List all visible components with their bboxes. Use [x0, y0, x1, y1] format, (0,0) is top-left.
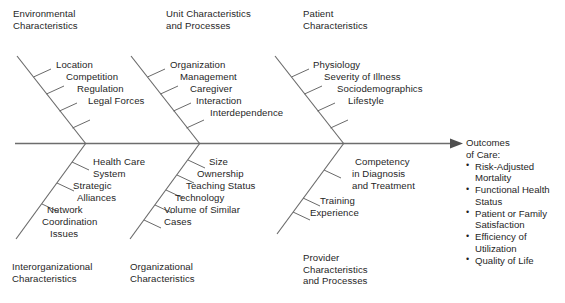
category-label-provider: ProviderCharacteristicsand Processes [303, 252, 368, 287]
twig-interorg-1 [72, 162, 89, 170]
outcome-item-2-label: Functional Health Status [475, 184, 550, 207]
factor-patient-1: Physiology [313, 59, 360, 71]
factor-unit-3: Caregiver [190, 83, 232, 95]
outcome-item-5: •Quality of Life [466, 255, 565, 267]
factor-environmental-2: Competition [66, 71, 118, 83]
twig-environmental-2 [47, 86, 65, 94]
outcomes-block: Outcomes of Care: •Risk-Adjusted Mortali… [466, 137, 565, 266]
twig-provider-2 [303, 198, 320, 206]
category-label-patient-line-2: Characteristics [303, 20, 368, 31]
factor-org-1: Size [209, 156, 228, 168]
factor-patient-3: Sociodemographics [337, 83, 423, 95]
twig-environmental-4 [73, 120, 91, 128]
outcome-item-5-label: Quality of Life [475, 255, 534, 266]
factor-org-2: Ownership [197, 168, 244, 180]
factor-interorg-5: Network [47, 204, 83, 216]
category-label-interorganizational: InterorganizationalCharacteristics [12, 261, 92, 284]
twig-environmental-1 [34, 69, 52, 77]
category-label-organizational: OrganizationalCharacteristics [130, 261, 195, 284]
category-label-environmental: EnvironmentalCharacteristics [13, 8, 78, 31]
category-label-provider-line-3: and Processes [303, 275, 368, 286]
outcomes-heading-line-2: of Care: [466, 149, 565, 161]
bullet-icon: • [466, 160, 469, 172]
factor-unit-5: Interdependence [210, 107, 283, 119]
twig-unit-1 [148, 69, 166, 77]
category-label-unit: Unit Characteristicsand Processes [166, 8, 251, 31]
category-label-org-line-1: Organizational [130, 261, 193, 272]
factor-org-4: Technology [175, 192, 224, 204]
factor-org-5: Volume of Similar [164, 204, 240, 216]
twig-patient-1 [292, 69, 310, 77]
outcome-item-4: •Efficiency of Utilization [466, 231, 565, 255]
twig-environmental-3 [60, 103, 78, 111]
factor-provider-1: Competency [355, 156, 410, 168]
outcomes-heading-line-1: Outcomes [466, 137, 565, 149]
factor-provider-3: and Treatment [352, 180, 415, 192]
factor-environmental-4: Legal Forces [88, 95, 144, 107]
category-label-org-line-2: Characteristics [130, 273, 195, 284]
twig-interorg-2 [57, 183, 74, 191]
twig-provider-1 [324, 170, 341, 178]
category-label-provider-line-1: Provider [303, 252, 339, 263]
factor-unit-4: Interaction [196, 95, 242, 107]
twig-patient-2 [305, 86, 323, 94]
category-label-interorg-line-1: Interorganizational [12, 261, 92, 272]
category-label-unit-line-2: and Processes [166, 20, 231, 31]
category-label-provider-line-2: Characteristics [303, 264, 368, 275]
twig-org-1 [188, 160, 205, 168]
twig-patient-3 [318, 103, 336, 111]
factor-provider-5: Experience [310, 207, 359, 219]
factor-interorg-4: Alliances [77, 192, 116, 204]
twig-patient-4 [331, 120, 349, 128]
factor-interorg-7: Issues [50, 228, 78, 240]
factor-org-3: Teaching Status [186, 180, 255, 192]
outcome-item-3: •Patient or Family Satisfaction [466, 208, 565, 232]
category-label-environmental-line-1: Environmental [13, 8, 75, 19]
category-label-environmental-line-2: Characteristics [13, 20, 78, 31]
bullet-icon: • [466, 254, 469, 266]
factor-environmental-3: Regulation [77, 83, 124, 95]
outcome-item-3-label: Patient or Family Satisfaction [475, 208, 547, 231]
factor-interorg-6: Coordination [42, 216, 97, 228]
outcome-item-1: •Risk-Adjusted Mortality [466, 161, 565, 185]
twig-provider-3 [293, 212, 310, 220]
factor-unit-1: Organization [170, 59, 225, 71]
bullet-icon: • [466, 207, 469, 219]
fishbone-diagram: EnvironmentalCharacteristics Unit Charac… [0, 0, 565, 303]
outcome-item-4-label: Efficiency of Utilization [475, 231, 527, 254]
spine-arrowhead [450, 139, 463, 149]
twig-unit-2 [161, 86, 179, 94]
outcomes-list: •Risk-Adjusted Mortality •Functional Hea… [466, 161, 565, 267]
twig-unit-4 [187, 120, 205, 128]
twig-org-5 [144, 220, 161, 228]
category-label-interorg-line-2: Characteristics [12, 273, 77, 284]
factor-provider-4: Training [320, 195, 355, 207]
factor-patient-2: Severity of Illness [324, 71, 401, 83]
outcome-item-2: •Functional Health Status [466, 184, 565, 208]
factor-interorg-2: System [93, 168, 125, 180]
bullet-icon: • [466, 184, 469, 196]
bullet-icon: • [466, 231, 469, 243]
factor-provider-2: in Diagnosis [352, 168, 405, 180]
factor-org-6: Cases [164, 216, 192, 228]
category-label-patient: PatientCharacteristics [303, 8, 368, 31]
outcome-item-1-label: Risk-Adjusted Mortality [475, 161, 534, 184]
twig-unit-3 [174, 103, 192, 111]
factor-patient-4: Lifestyle [348, 95, 384, 107]
factor-interorg-3: Strategic [73, 180, 112, 192]
factor-unit-2: Management [180, 71, 237, 83]
factor-interorg-1: Health Care [93, 156, 145, 168]
category-label-unit-line-1: Unit Characteristics [166, 8, 251, 19]
factor-environmental-1: Location [56, 59, 93, 71]
category-label-patient-line-1: Patient [303, 8, 333, 19]
rib-provider [277, 143, 344, 234]
